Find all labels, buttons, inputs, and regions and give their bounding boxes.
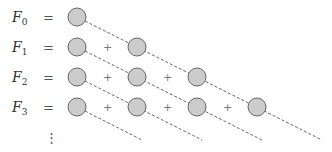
circle — [128, 68, 146, 86]
circle — [248, 98, 266, 116]
row-f2: F2 = + + — [11, 68, 206, 87]
label-f3: F3 — [11, 99, 28, 117]
equals-sign: = — [43, 40, 54, 55]
circle — [188, 68, 206, 86]
continuation-dots: ⋮ — [45, 130, 58, 145]
equals-sign: = — [43, 70, 54, 85]
plus-sign: + — [163, 71, 172, 84]
plus-sign: + — [103, 41, 112, 54]
equals-sign: = — [43, 10, 54, 25]
row-f3: F3 = + + + — [11, 98, 266, 117]
circle — [68, 68, 86, 86]
plus-sign: + — [163, 101, 172, 114]
plus-sign: + — [103, 71, 112, 84]
label-f1: F1 — [11, 39, 27, 57]
circle — [68, 98, 86, 116]
label-f2: F2 — [11, 69, 27, 87]
row-f1: F1 = + — [11, 38, 146, 57]
plus-sign: + — [223, 101, 232, 114]
label-f0: F0 — [11, 9, 28, 27]
equals-sign: = — [43, 100, 54, 115]
circle — [68, 38, 86, 56]
circle — [68, 8, 86, 26]
circle — [188, 98, 206, 116]
fibonacci-diagram: F0 = F1 = + F2 = + + F3 = + + + ⋮ — [0, 0, 332, 152]
circle — [128, 38, 146, 56]
circle — [128, 98, 146, 116]
plus-sign: + — [103, 101, 112, 114]
row-f0: F0 = — [11, 8, 86, 27]
